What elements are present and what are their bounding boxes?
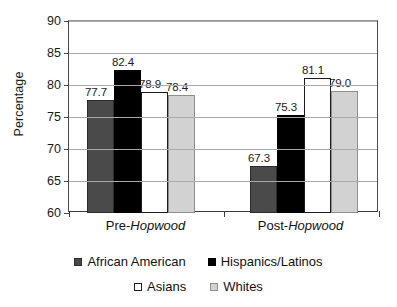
bar-value-label: 79.0 bbox=[329, 77, 351, 89]
y-axis-tick-label: 90 bbox=[47, 14, 61, 28]
legend-swatch-icon bbox=[208, 258, 216, 266]
gridline bbox=[69, 181, 377, 182]
legend-swatch-icon bbox=[74, 258, 82, 266]
bar bbox=[304, 78, 331, 213]
bar bbox=[250, 166, 277, 213]
legend-label: Asians bbox=[147, 279, 186, 294]
legend-label: Hispanics/Latinos bbox=[221, 254, 323, 269]
bar bbox=[331, 91, 358, 213]
bar bbox=[277, 115, 304, 213]
bar-value-label: 82.4 bbox=[112, 56, 134, 68]
y-axis-tick bbox=[64, 149, 69, 150]
x-axis-tick bbox=[379, 211, 380, 217]
legend-row: African AmericanHispanics/Latinos bbox=[0, 249, 397, 274]
y-axis-tick bbox=[64, 53, 69, 54]
bar-chart-figure: Percentage 77.782.478.978.467.375.381.17… bbox=[0, 0, 397, 307]
bar-value-label: 75.3 bbox=[275, 101, 297, 113]
y-axis-title: Percentage bbox=[12, 44, 26, 164]
category-label-term: Hopwood bbox=[288, 218, 343, 233]
bar bbox=[114, 70, 141, 213]
legend-label: Whites bbox=[223, 279, 263, 294]
gridline bbox=[69, 117, 377, 118]
y-axis-tick-label: 70 bbox=[47, 142, 61, 156]
y-axis-tick-label: 75 bbox=[47, 110, 61, 124]
bar-value-label: 81.1 bbox=[302, 64, 324, 76]
plot-area: 77.782.478.978.467.375.381.179.0 6065707… bbox=[68, 20, 378, 212]
bar-value-label: 78.4 bbox=[166, 81, 188, 93]
gridline bbox=[69, 21, 377, 22]
bar bbox=[141, 92, 168, 213]
bars-layer: 77.782.478.978.467.375.381.179.0 bbox=[69, 21, 377, 211]
bar-value-label: 77.7 bbox=[85, 86, 107, 98]
bar-value-label: 67.3 bbox=[248, 152, 270, 164]
legend-row: AsiansWhites bbox=[0, 274, 397, 299]
category-label-prefix: Pre- bbox=[106, 218, 131, 233]
legend-item[interactable]: Hispanics/Latinos bbox=[208, 254, 323, 269]
y-axis-tick-label: 65 bbox=[47, 174, 61, 188]
x-axis-tick bbox=[69, 211, 70, 217]
legend-item[interactable]: African American bbox=[74, 254, 185, 269]
y-axis-tick bbox=[64, 117, 69, 118]
legend-swatch-icon bbox=[134, 283, 142, 291]
y-axis-tick bbox=[64, 85, 69, 86]
bar bbox=[168, 95, 195, 213]
legend-item[interactable]: Whites bbox=[210, 279, 263, 294]
y-axis-tick bbox=[64, 181, 69, 182]
chart-legend: African AmericanHispanics/LatinosAsiansW… bbox=[0, 249, 397, 299]
category-label-prefix: Post- bbox=[258, 218, 288, 233]
x-axis-tick bbox=[224, 211, 225, 217]
y-axis-tick bbox=[64, 21, 69, 22]
legend-item[interactable]: Asians bbox=[134, 279, 186, 294]
legend-label: African American bbox=[87, 254, 185, 269]
legend-swatch-icon bbox=[210, 283, 218, 291]
category-label-term: Hopwood bbox=[130, 218, 185, 233]
y-axis-tick-label: 60 bbox=[47, 206, 61, 220]
y-axis-tick-label: 85 bbox=[47, 46, 61, 60]
x-axis-category-label: Pre-Hopwood bbox=[106, 218, 186, 233]
gridline bbox=[69, 149, 377, 150]
gridline bbox=[69, 53, 377, 54]
gridline bbox=[69, 85, 377, 86]
y-axis-tick-label: 80 bbox=[47, 78, 61, 92]
x-axis-category-label: Post-Hopwood bbox=[258, 218, 343, 233]
